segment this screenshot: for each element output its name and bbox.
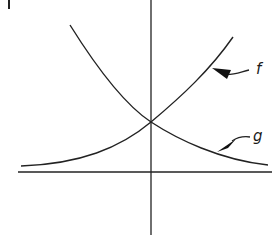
corner-fragment — [8, 0, 10, 9]
label-g: g — [253, 127, 263, 145]
curve-g — [70, 25, 268, 165]
arrowhead-f-icon — [212, 68, 231, 79]
label-f: f — [256, 60, 261, 78]
graph-canvas — [0, 0, 276, 235]
